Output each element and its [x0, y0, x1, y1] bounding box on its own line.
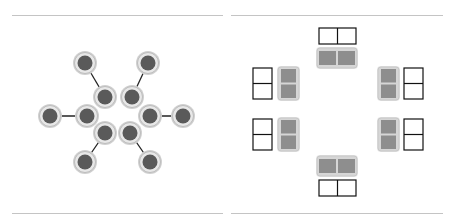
paired-blocks-diagram — [0, 0, 452, 220]
gray-block — [316, 155, 358, 177]
gray-block — [377, 117, 400, 152]
empty-block — [404, 119, 423, 150]
gray-block — [316, 47, 358, 69]
gray-block — [277, 66, 300, 101]
empty-block — [319, 28, 356, 44]
empty-block — [253, 119, 272, 150]
gray-block — [377, 66, 400, 101]
empty-block — [319, 180, 356, 196]
empty-block — [253, 68, 272, 99]
empty-block — [404, 68, 423, 99]
gray-block — [277, 117, 300, 152]
